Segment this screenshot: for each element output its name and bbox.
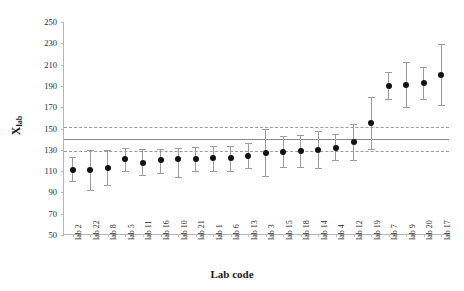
error-bar-cap-lower [403,107,410,108]
x-axis-tick-label: lab 16 [163,220,171,240]
error-bar-cap-lower [104,185,111,186]
x-axis-tick-label: lab 9 [409,224,417,240]
x-axis-tick-mark [406,234,407,237]
error-bar-cap-upper [87,150,94,151]
y-axis-tick-mark [61,192,64,193]
y-axis-tick-mark [61,235,64,236]
error-bar-cap-lower [297,167,304,168]
x-axis-tick-label: lab 13 [251,220,259,240]
error-bar-cap-upper [280,136,287,137]
data-point-marker [368,120,374,126]
data-point-marker [298,148,304,154]
x-axis-tick-mark [178,234,179,237]
error-bar-cap-lower [262,176,269,177]
x-axis-tick-label: lab 5 [128,224,136,240]
data-point-marker [175,156,181,162]
y-axis-tick-label: 90 [31,188,57,197]
x-axis-tick-label: lab 19 [374,220,382,240]
data-point-marker [386,83,392,89]
y-axis-tick-label: 110 [31,167,57,176]
error-bar-cap-lower [175,177,182,178]
x-axis-tick-mark [371,234,372,237]
plot-area [63,22,449,235]
data-point-marker [210,155,216,161]
data-point-marker [263,150,269,156]
error-bar-cap-lower [139,175,146,176]
x-axis-tick-label: lab 10 [181,220,189,240]
reference-line-lower-limit [64,151,449,152]
error-bar-cap-upper [403,62,410,63]
data-point-marker [280,149,286,155]
data-point-marker [140,160,146,166]
x-axis-tick-mark [213,234,214,237]
y-axis-tick-label: 70 [31,210,57,219]
data-point-marker [193,156,199,162]
error-bar-cap-lower [87,190,94,191]
y-axis-tick-mark [61,214,64,215]
x-axis-tick-label: lab 11 [145,221,153,240]
error-bar-cap-upper [227,146,234,147]
y-axis-tick-label: 130 [31,146,57,155]
chart-container: Xlab Lab code 50709011013015017019021023… [0,0,464,291]
data-point-marker [158,157,164,163]
error-bar-cap-lower [350,160,357,161]
data-point-marker [333,145,339,151]
error-bar-cap-upper [315,131,322,132]
error-bar-cap-upper [420,67,427,68]
error-bar-cap-upper [262,129,269,130]
data-point-marker [315,147,321,153]
y-axis-tick-mark [61,86,64,87]
error-bar-cap-upper [385,72,392,73]
y-axis-tick-label: 190 [31,82,57,91]
data-point-marker [228,155,234,161]
x-axis-tick-label: lab 1 [216,224,224,240]
x-axis-tick-label: lab 2 [75,224,83,240]
error-bar-cap-upper [139,149,146,150]
x-axis-tick-label: lab 14 [321,220,329,240]
error-bar-cap-upper [175,148,182,149]
error-bar-cap-upper [122,148,129,149]
error-bar-cap-upper [210,146,217,147]
x-axis-tick-label: lab 15 [286,220,294,240]
y-axis-tick-mark [61,65,64,66]
error-bar-cap-upper [157,149,164,150]
error-bar-cap-upper [297,135,304,136]
x-axis-tick-label: lab 12 [356,220,364,240]
data-point-marker [245,153,251,159]
x-axis-tick-label: lab 7 [391,224,399,240]
data-point-marker [421,80,427,86]
x-axis-tick-label: lab 6 [233,224,241,240]
error-bar-cap-upper [69,157,76,158]
data-point-marker [438,72,444,78]
x-axis-tick-label: lab 8 [110,224,118,240]
y-axis-tick-label: 210 [31,61,57,70]
error-bar-cap-lower [315,168,322,169]
error-bar-cap-upper [192,147,199,148]
y-axis-tick-label: 170 [31,103,57,112]
y-axis-tick-mark [61,107,64,108]
error-bar-cap-lower [438,105,445,106]
y-axis-tick-mark [61,22,64,23]
x-axis-tick-label: lab 17 [444,220,452,240]
reference-line-upper-limit [64,127,449,128]
error-bar-cap-lower [227,171,234,172]
y-axis-tick-label: 250 [31,18,57,27]
x-axis-tick-label: lab 21 [198,220,206,240]
x-axis-tick-label: lab 4 [338,224,346,240]
y-axis-tick-label: 50 [31,231,57,240]
error-bar-cap-lower [210,171,217,172]
error-bar-cap-upper [104,150,111,151]
error-bar-cap-lower [280,167,287,168]
error-bar-cap-upper [438,44,445,45]
error-bar-cap-lower [157,173,164,174]
error-bar-cap-upper [350,124,357,125]
error-bar-cap-lower [245,168,252,169]
error-bar-cap-upper [332,134,339,135]
data-point-marker [105,165,111,171]
error-bar-cap-lower [69,181,76,182]
y-axis-tick-label: 230 [31,39,57,48]
error-bar-cap-lower [332,160,339,161]
y-axis-title-subscript: lab [15,116,24,127]
error-bar [178,148,179,178]
error-bar-cap-lower [368,149,375,150]
